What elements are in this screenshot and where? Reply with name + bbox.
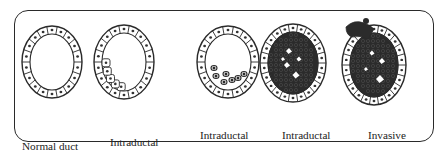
duct-invasive: [342, 18, 406, 105]
label-carcinoma-in-situ: Intraductal carcinoma in situ: [282, 109, 330, 152]
label-line: Invasive: [368, 130, 406, 141]
duct-hyperplasia: [94, 25, 154, 99]
label-line: Intraductal: [282, 130, 330, 141]
label-line: Normal duct: [22, 141, 78, 152]
invasion-front: [346, 22, 374, 39]
label-hyperplasia-with-atypia: Intraductal hyperplasia with atypia: [200, 109, 252, 152]
label-intraductal-hyperplasia: Intraductal hyperplasia: [110, 116, 162, 152]
label-normal-duct: Normal duct: [22, 120, 78, 152]
label-line: Intraductal: [200, 130, 252, 141]
label-invasive-ductal-cancer: Invasive ductal cancer: [368, 109, 406, 152]
duct-atypia: [197, 26, 259, 98]
duct-normal: [22, 26, 82, 98]
tumor-mass: [268, 32, 318, 94]
label-line: Intraductal: [110, 137, 162, 148]
duct-dcis: [260, 24, 326, 102]
